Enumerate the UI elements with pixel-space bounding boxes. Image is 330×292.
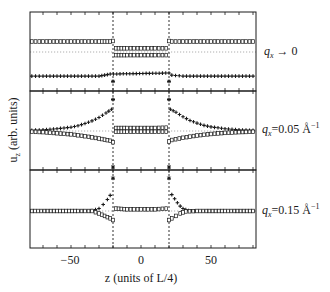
open-square-marker: [117, 207, 120, 211]
plus-marker: [177, 74, 181, 78]
star-marker: [111, 176, 115, 180]
open-square-marker: [59, 40, 62, 44]
open-square-marker: [154, 126, 157, 130]
open-square-marker: [157, 207, 160, 211]
open-square-marker: [56, 40, 59, 44]
plus-marker: [206, 74, 210, 78]
plus-marker: [176, 201, 180, 205]
open-square-marker: [129, 208, 132, 212]
open-square-marker: [182, 136, 185, 140]
open-square-marker: [49, 209, 52, 213]
open-square-marker: [103, 138, 106, 142]
open-square-marker: [199, 209, 202, 213]
open-square-marker: [168, 218, 171, 222]
star-marker: [111, 98, 115, 102]
plus-marker: [237, 74, 241, 78]
open-square-marker: [136, 53, 139, 57]
open-square-marker: [143, 208, 146, 212]
plus-marker: [170, 73, 174, 77]
open-square-marker: [234, 40, 237, 44]
open-square-marker: [242, 209, 245, 213]
open-square-marker: [109, 40, 112, 44]
open-square-marker: [202, 209, 205, 213]
open-square-marker: [74, 209, 77, 213]
open-square-marker: [87, 135, 90, 139]
plus-marker: [90, 74, 94, 78]
open-square-marker: [133, 130, 136, 134]
plus-marker: [104, 111, 108, 115]
open-square-marker: [112, 218, 115, 222]
open-square-marker: [43, 209, 46, 213]
plus-marker: [223, 127, 227, 131]
open-square-marker: [150, 130, 153, 134]
open-square-marker: [84, 209, 87, 213]
open-square-marker: [87, 209, 90, 213]
plus-marker: [192, 120, 196, 124]
open-square-marker: [227, 209, 230, 213]
open-square-marker: [98, 40, 101, 44]
plus-marker: [118, 72, 122, 76]
open-square-marker: [140, 53, 143, 57]
open-square-marker: [123, 130, 126, 134]
plus-marker: [227, 74, 231, 78]
plus-marker: [128, 72, 132, 76]
plus-marker: [97, 116, 101, 120]
open-square-marker: [154, 53, 157, 57]
plus-marker: [37, 74, 41, 78]
plus-marker: [173, 197, 177, 201]
open-square-marker: [203, 133, 206, 137]
open-square-marker: [133, 208, 136, 212]
star-marker: [111, 79, 115, 83]
open-square-marker: [179, 212, 182, 216]
open-square-marker: [217, 132, 220, 136]
open-square-marker: [30, 209, 33, 213]
open-square-marker: [147, 126, 150, 130]
plus-marker: [181, 74, 185, 78]
open-square-marker: [170, 40, 173, 44]
open-square-marker: [245, 130, 248, 134]
open-square-marker: [165, 53, 168, 57]
plus-marker: [220, 126, 224, 130]
plus-marker: [76, 74, 80, 78]
open-square-marker: [46, 209, 49, 213]
plus-marker: [144, 72, 148, 76]
plus-marker: [52, 127, 56, 131]
open-square-marker: [168, 140, 171, 144]
open-square-marker: [157, 126, 160, 130]
plus-marker: [66, 74, 70, 78]
open-square-marker: [227, 131, 230, 135]
plus-marker: [241, 74, 245, 78]
open-square-marker: [147, 47, 150, 51]
open-square-marker: [174, 40, 177, 44]
plus-marker: [209, 74, 213, 78]
open-square-marker: [165, 126, 168, 130]
open-square-marker: [147, 208, 150, 212]
open-square-marker: [112, 39, 115, 43]
plus-marker: [115, 72, 119, 76]
plus-marker: [195, 121, 199, 125]
plus-marker: [106, 198, 110, 202]
open-square-marker: [224, 40, 227, 44]
open-square-marker: [238, 40, 241, 44]
open-square-marker: [84, 134, 87, 138]
open-square-marker: [182, 40, 185, 44]
plus-marker: [90, 119, 94, 123]
open-square-marker: [147, 130, 150, 134]
panel-label-rest: → 0: [274, 44, 298, 58]
panel-label-rest: =0.15 Å: [272, 203, 311, 217]
plus-marker: [213, 126, 217, 130]
open-square-marker: [165, 207, 168, 211]
open-square-marker: [117, 53, 120, 57]
open-square-marker: [206, 40, 209, 44]
open-square-marker: [120, 126, 123, 130]
plus-marker: [185, 117, 189, 121]
open-square-marker: [214, 209, 217, 213]
open-square-marker: [140, 130, 143, 134]
open-square-marker: [161, 53, 164, 57]
open-square-marker: [114, 207, 117, 211]
plus-marker: [148, 72, 152, 76]
plus-marker: [178, 113, 182, 117]
plus-marker: [48, 74, 52, 78]
open-square-marker: [117, 47, 120, 51]
open-square-marker: [140, 47, 143, 51]
